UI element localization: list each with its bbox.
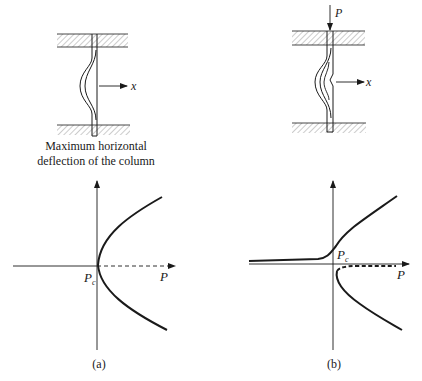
x-axis-label-b: P [396,267,405,282]
x-axis-label-a: P [159,269,168,284]
column-diagram-b: P x [292,5,372,133]
caption-a: (a) [92,357,105,371]
load-label-b: P [334,6,343,20]
caption-b: (b) [327,357,341,371]
buckled-column-inner-b [320,48,331,118]
bottom-plate-a [57,125,130,135]
unstable-branch-b [337,266,396,271]
description-line-2: deflection of the column [37,154,155,168]
top-plate-b [292,31,365,45]
description-line-1: Maximum horizontal [45,139,147,153]
critical-load-label-b: Pc [336,247,349,264]
column-diagram-a: x [57,34,137,136]
bifurcation-figure: x Maximum horizontal deflection of the c… [0,0,422,381]
imperfect-column-right-edge-b [330,31,333,132]
buckled-column-outer-b [315,31,327,132]
bifurcation-graph-a: Pc P [13,181,176,350]
deflection-label-b: x [365,75,372,89]
critical-load-label-a: Pc [83,270,96,287]
lower-stable-branch-b [337,271,402,330]
figure-svg: x Maximum horizontal deflection of the c… [0,0,422,381]
buckled-column-outer-a [80,34,92,136]
deflection-label-a: x [130,79,137,93]
upper-stable-branch-a [98,197,162,265]
bifurcation-graph-b: Pc P [249,181,409,350]
x-axis-arrowhead-a [168,263,176,269]
imperfect-primary-branch-b [249,196,397,261]
lower-stable-branch-a [98,265,167,330]
